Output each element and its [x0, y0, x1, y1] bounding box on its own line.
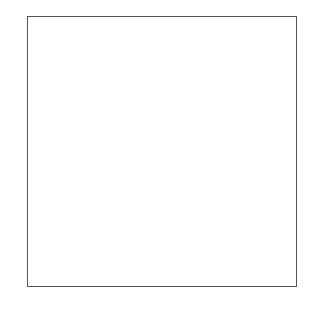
chess-board[interactable] [27, 16, 297, 287]
